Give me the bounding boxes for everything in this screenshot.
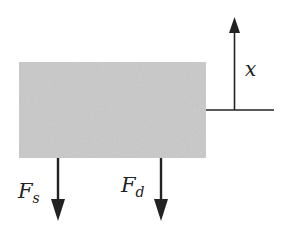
force-s-arrow-icon <box>51 158 65 221</box>
free-body-diagram: x Fs Fd <box>0 0 291 234</box>
block <box>19 62 206 158</box>
x-axis-arrow-icon <box>229 17 240 110</box>
x-axis-label: x <box>245 57 256 81</box>
force-d-label: Fd <box>120 173 145 200</box>
force-s-label: Fs <box>17 179 40 206</box>
force-d-arrow-icon <box>154 158 168 221</box>
